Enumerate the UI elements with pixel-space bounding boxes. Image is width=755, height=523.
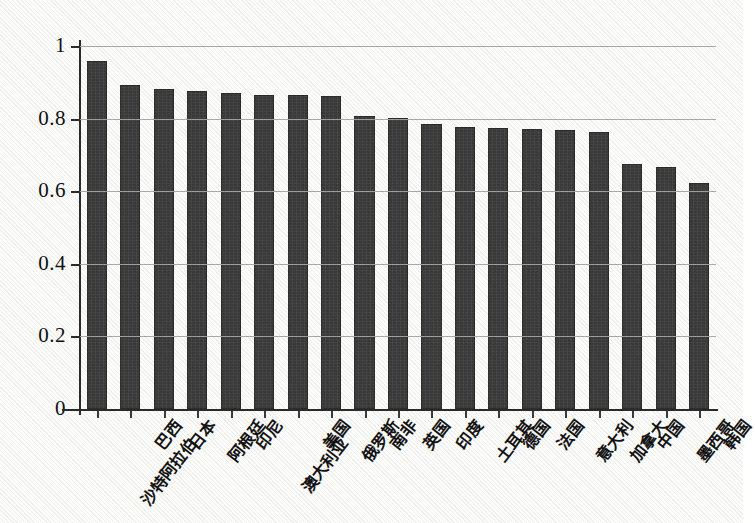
gridline [80,336,716,337]
bar[interactable] [288,95,308,409]
x-tick-mark [599,411,601,418]
y-tick-label: 0.8 [38,108,66,129]
bar[interactable] [522,129,542,409]
y-tick-label: 0.4 [38,253,66,274]
x-tick-mark [331,411,333,418]
y-tick-label: 1 [55,35,66,56]
x-tick-mark [130,411,132,418]
bar[interactable] [488,128,508,409]
x-tick-mark [398,411,400,418]
gridline [80,46,716,47]
x-tick-mark [264,411,266,418]
y-tick-label: 0.2 [38,325,66,346]
x-tick-mark [632,411,634,418]
x-axis-line [62,409,718,411]
gridline [80,191,716,192]
gridline [80,119,716,120]
x-tick-mark [565,411,567,418]
x-axis-label: 印度 [454,417,487,453]
bar[interactable] [187,91,207,409]
x-tick-mark [431,411,433,418]
bar[interactable] [221,93,241,409]
x-tick-mark [197,411,199,418]
plot-area [80,46,716,409]
y-tick-label: 0.6 [38,180,66,201]
x-tick-mark [532,411,534,418]
bar[interactable] [154,89,174,409]
bar[interactable] [622,164,642,409]
bar[interactable] [689,183,709,410]
x-tick-mark [97,411,99,418]
x-axis-label: 意大利 [594,417,637,465]
x-tick-mark [231,411,233,418]
bar[interactable] [421,124,441,409]
gridline [80,264,716,265]
x-tick-mark [365,411,367,418]
x-axis-label: 英国 [420,417,453,453]
bar[interactable] [555,130,575,409]
bar[interactable] [656,167,676,409]
x-tick-mark [298,411,300,418]
bar[interactable] [321,96,341,409]
bar[interactable] [354,116,374,409]
x-tick-mark [666,411,668,418]
bar[interactable] [589,132,609,409]
bar[interactable] [87,61,107,409]
x-tick-mark [699,411,701,418]
x-tick-mark [164,411,166,418]
x-tick-mark [498,411,500,418]
x-tick-mark [465,411,467,418]
x-axis-label: 法国 [554,417,587,453]
bar[interactable] [254,95,274,409]
bar[interactable] [455,127,475,409]
bar[interactable] [120,85,140,409]
